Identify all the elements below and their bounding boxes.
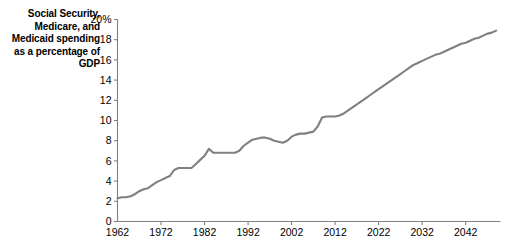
line-chart-plot: 02468101214161820% 196219721982199220022… [0, 0, 507, 246]
y-axis-tick-label: 8 [106, 134, 112, 146]
x-axis-tick-label: 1992 [236, 226, 260, 238]
x-axis-tick-label: 1962 [106, 226, 130, 238]
y-axis-tick-label: 14 [100, 74, 112, 86]
y-axis-tick-label: 12 [100, 94, 112, 106]
y-axis-tick-label: 16 [100, 54, 112, 66]
x-axis: 196219721982199220022012202220322042 [106, 222, 501, 239]
y-axis-tick-label: 6 [106, 155, 112, 167]
x-axis-tick-label: 1972 [149, 226, 173, 238]
x-axis-tick-label: 1982 [193, 226, 217, 238]
y-axis: 02468101214161820% [90, 13, 117, 227]
x-axis-tick-label: 2032 [410, 226, 434, 238]
series-line [118, 31, 497, 199]
x-axis-tick-label: 2022 [367, 226, 391, 238]
y-axis-tick-label: 2 [106, 195, 112, 207]
x-axis-tick-label: 2002 [280, 226, 304, 238]
y-axis-tick-label: 10 [100, 114, 112, 126]
y-axis-tick-label: 4 [106, 175, 112, 187]
y-axis-tick-label: 20% [90, 13, 111, 25]
y-axis-tick-label: 18 [100, 33, 112, 45]
x-axis-tick-label: 2042 [454, 226, 478, 238]
data-series-group [118, 31, 497, 199]
chart-figure: Social Security, Medicare, and Medicaid … [0, 0, 507, 246]
x-axis-tick-label: 2012 [323, 226, 347, 238]
